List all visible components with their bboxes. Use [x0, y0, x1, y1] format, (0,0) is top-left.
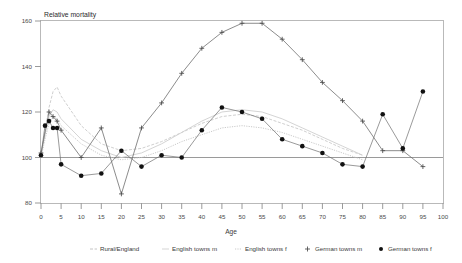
- x-tick-label: 50: [239, 213, 246, 220]
- y-tick-label: 80: [25, 199, 32, 206]
- x-tick-label: 30: [158, 213, 165, 220]
- x-tick-label: 15: [98, 213, 105, 220]
- plot-title: Relative mortality: [44, 11, 97, 19]
- x-tick-label: 95: [419, 213, 426, 220]
- marker-dot: [79, 173, 84, 178]
- x-tick-label: 35: [178, 213, 185, 220]
- marker-dot: [421, 89, 426, 94]
- x-tick-label: 85: [379, 213, 386, 220]
- marker-dot: [380, 112, 385, 117]
- x-tick-label: 65: [299, 213, 306, 220]
- marker-dot: [360, 164, 365, 169]
- marker-dot: [200, 128, 205, 133]
- x-tick-label: 25: [138, 213, 145, 220]
- marker-dot: [39, 153, 44, 158]
- marker-dot: [159, 153, 164, 158]
- marker-dot: [47, 119, 52, 124]
- marker-dot: [220, 105, 225, 110]
- x-tick-label: 20: [118, 213, 125, 220]
- x-tick-label: 5: [59, 213, 63, 220]
- x-tick-label: 55: [259, 213, 266, 220]
- x-tick-label: 90: [399, 213, 406, 220]
- y-tick-label: 140: [22, 63, 33, 70]
- x-tick-label: 40: [198, 213, 205, 220]
- x-tick-label: 75: [339, 213, 346, 220]
- marker-dot: [99, 171, 104, 176]
- x-tick-label: 100: [438, 213, 449, 220]
- legend-label: English towns f: [245, 245, 287, 252]
- y-tick-label: 100: [22, 154, 33, 161]
- marker-dot: [59, 162, 64, 167]
- legend-label: Rural/England: [100, 245, 140, 252]
- marker-dot: [240, 110, 245, 115]
- legend-swatch-dot: [379, 247, 383, 251]
- x-tick-label: 60: [279, 213, 286, 220]
- chart-canvas: Relative mortality 80100120140160 051015…: [0, 0, 462, 263]
- mortality-chart: Relative mortality 80100120140160 051015…: [0, 0, 462, 263]
- x-tick-label: 70: [319, 213, 326, 220]
- marker-dot: [340, 162, 345, 167]
- marker-dot: [51, 126, 56, 131]
- x-tick-label: 80: [359, 213, 366, 220]
- legend-label: English towns m: [172, 245, 217, 252]
- legend-label: German towns m: [315, 245, 362, 252]
- marker-dot: [320, 151, 325, 156]
- x-tick-label: 10: [78, 213, 85, 220]
- marker-dot: [401, 146, 406, 151]
- marker-dot: [43, 123, 48, 128]
- marker-dot: [280, 137, 285, 142]
- legend-label: German towns f: [388, 245, 432, 252]
- marker-dot: [179, 155, 184, 160]
- marker-dot: [55, 126, 60, 131]
- marker-dot: [139, 164, 144, 169]
- x-tick-label: 0: [39, 213, 43, 220]
- x-axis-title: Age: [225, 228, 237, 236]
- y-tick-label: 160: [22, 17, 33, 24]
- x-tick-label: 45: [218, 213, 225, 220]
- marker-dot: [260, 117, 265, 122]
- marker-dot: [300, 144, 305, 149]
- marker-dot: [119, 148, 124, 153]
- y-tick-label: 120: [22, 108, 33, 115]
